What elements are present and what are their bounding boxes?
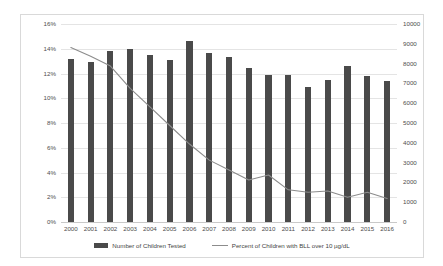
- bar: [88, 62, 94, 222]
- x-axis-tick-label: 2006: [180, 226, 200, 232]
- gridline: [61, 49, 397, 50]
- right-axis-tick-label: 3000: [397, 160, 417, 166]
- right-axis-tick-label: 1000: [397, 199, 417, 205]
- x-axis-tick-label: 2014: [338, 226, 358, 232]
- right-axis-tick-label: 10000: [397, 21, 420, 27]
- x-axis-tick-label: 2002: [101, 226, 121, 232]
- legend-label-percent-bll-over-10: Percent of Children with BLL over 10 µg/…: [232, 243, 350, 249]
- plot-area: 0%2%4%6%8%10%12%14%16% 01000200030004000…: [61, 24, 397, 222]
- bar: [147, 55, 153, 222]
- bar: [384, 81, 390, 222]
- x-axis-tick-label: 2012: [298, 226, 318, 232]
- left-axis-tick-label: 14%: [44, 46, 61, 52]
- axis-baseline: [61, 222, 397, 223]
- chart-legend: Number of Children Tested Percent of Chi…: [21, 243, 423, 249]
- legend-label-number-of-children-tested: Number of Children Tested: [112, 243, 185, 249]
- right-axis-tick-label: 9000: [397, 41, 417, 47]
- x-axis-tick-label: 2010: [259, 226, 279, 232]
- right-axis-tick-label: 8000: [397, 61, 417, 67]
- left-axis-tick-label: 12%: [44, 71, 61, 77]
- bar: [265, 75, 271, 222]
- right-axis-tick-label: 4000: [397, 140, 417, 146]
- x-axis-tick-label: 2003: [120, 226, 140, 232]
- x-axis-tick-label: 2016: [377, 226, 397, 232]
- x-axis-tick-label: 2008: [219, 226, 239, 232]
- x-axis-tick-label: 2004: [140, 226, 160, 232]
- legend-item-percent-bll-over-10: Percent of Children with BLL over 10 µg/…: [212, 243, 350, 249]
- chart-frame: 0%2%4%6%8%10%12%14%16% 01000200030004000…: [20, 14, 424, 258]
- bar: [325, 80, 331, 222]
- x-axis-tick-label: 2013: [318, 226, 338, 232]
- bar: [364, 76, 370, 222]
- x-axis-tick-label: 2001: [81, 226, 101, 232]
- bar: [68, 59, 74, 222]
- right-axis-tick-label: 0: [397, 219, 406, 225]
- x-axis-tick-label: 2011: [278, 226, 298, 232]
- bar: [305, 87, 311, 222]
- gridline: [61, 24, 397, 25]
- bar-swatch-icon: [94, 243, 108, 248]
- right-axis-tick-label: 5000: [397, 120, 417, 126]
- left-axis-tick-label: 0%: [47, 219, 61, 225]
- right-axis-tick-label: 6000: [397, 100, 417, 106]
- bar: [107, 51, 113, 222]
- bar: [285, 75, 291, 223]
- bar: [226, 57, 232, 222]
- legend-item-number-of-children-tested: Number of Children Tested: [94, 243, 185, 249]
- left-axis-tick-label: 16%: [44, 21, 61, 27]
- bar: [127, 49, 133, 222]
- left-axis-tick-label: 10%: [44, 95, 61, 101]
- bar: [206, 53, 212, 222]
- x-axis-tick-label: 2007: [199, 226, 219, 232]
- right-axis-tick-label: 2000: [397, 179, 417, 185]
- bar: [186, 41, 192, 222]
- x-axis-tick-label: 2015: [357, 226, 377, 232]
- x-axis-tick-label: 2005: [160, 226, 180, 232]
- right-axis-tick-label: 7000: [397, 80, 417, 86]
- bar: [167, 60, 173, 222]
- bar: [246, 68, 252, 222]
- left-axis-tick-label: 8%: [47, 120, 61, 126]
- x-axis-tick-label: 2000: [61, 226, 81, 232]
- x-axis-tick-label: 2009: [239, 226, 259, 232]
- left-axis-tick-label: 2%: [47, 194, 61, 200]
- line-swatch-icon: [212, 245, 228, 246]
- left-axis-tick-label: 6%: [47, 145, 61, 151]
- bar: [344, 66, 350, 222]
- left-axis-tick-label: 4%: [47, 170, 61, 176]
